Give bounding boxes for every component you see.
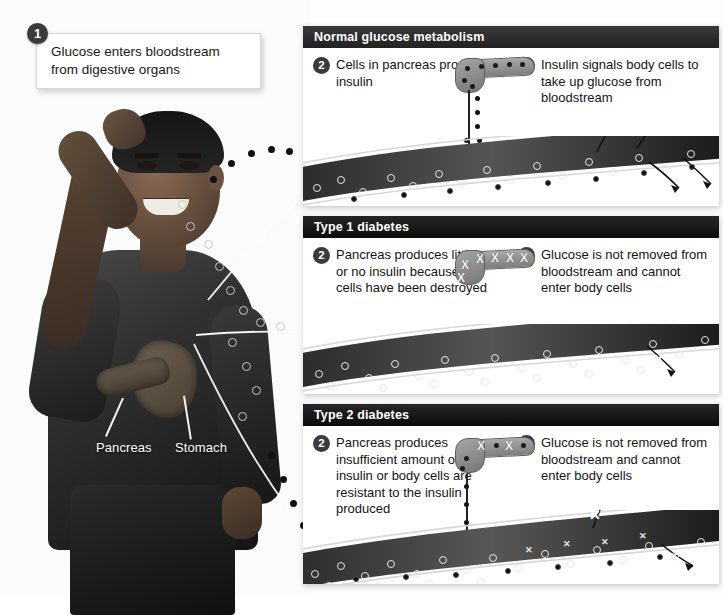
step-number-badge: 2 (313, 247, 330, 264)
panel-type-2-step-3-text: Glucose is not removed from bloodstream … (541, 435, 709, 485)
glucose-marker (327, 382, 335, 390)
destroyed-cell-x-icon: X (461, 259, 469, 271)
glucose-marker (541, 550, 549, 558)
islet-cell-icon (465, 66, 470, 71)
glucose-marker (477, 578, 485, 584)
glucose-marker (489, 554, 497, 562)
islet-cell-icon (507, 62, 512, 67)
step-number-badge: 2 (313, 57, 330, 74)
glucose-marker (415, 372, 423, 380)
glucose-marker (457, 180, 465, 188)
blocked-glucose-x-icon: ✕ (601, 538, 609, 547)
glucose-marker (533, 374, 541, 382)
glucose-marker (337, 176, 345, 184)
callout-step-1-text: Glucose enters bloodstream from digestiv… (51, 44, 220, 77)
insulin-marker (453, 572, 459, 578)
photo-area: Pancreas Stomach (0, 0, 310, 595)
glucose-marker (359, 188, 367, 196)
insulin-dot (475, 124, 480, 129)
destroyed-cell-x-icon: X (520, 252, 528, 264)
glucose-marker (637, 366, 645, 374)
panel-type-1-header: Type 1 diabetes (303, 216, 719, 238)
glucose-marker (315, 370, 323, 378)
glucose-marker (569, 360, 577, 368)
insulin-dot (464, 502, 469, 507)
glucose-marker (687, 150, 695, 158)
glucose-marker (441, 356, 449, 364)
glucose-marker (619, 556, 627, 564)
glucose-marker (341, 362, 349, 370)
insulin-marker (403, 574, 409, 580)
panel-normal-step-3: 3 Insulin signals body cells to take up … (518, 57, 709, 107)
insulin-marker (505, 568, 511, 574)
islet-cell-icon (521, 443, 526, 448)
insulin-marker (495, 184, 501, 190)
glucose-marker (697, 538, 705, 546)
islet-cell-icon (494, 443, 499, 448)
insulin-marker (641, 170, 647, 176)
glucose-marker (645, 542, 653, 550)
glucose-marker (463, 566, 471, 574)
glucose-marker (481, 378, 489, 386)
blood-vessel: ✕ ✕ (303, 510, 719, 584)
blocked-glucose-x-icon: ✕ (563, 540, 571, 549)
stomach-label: Stomach (175, 440, 227, 455)
islet-cell-icon (460, 466, 465, 471)
glucose-marker (361, 572, 369, 580)
pancreas-icon: X X X X X X (453, 246, 533, 290)
insulin-dot (475, 110, 480, 115)
glucose-marker (379, 384, 387, 392)
glucose-marker (517, 364, 525, 372)
glucose-marker (413, 570, 421, 578)
insulin-marker (545, 180, 551, 186)
destroyed-cell-x-icon: X (477, 440, 485, 452)
blood-vessel (303, 136, 719, 206)
glucose-marker (337, 562, 345, 570)
glucose-marker (675, 350, 683, 358)
destroyed-cell-x-icon: X (506, 252, 514, 264)
glucose-marker (465, 368, 473, 376)
eyebrow-left (135, 153, 158, 158)
glucose-marker (483, 166, 491, 174)
panel-type-2-body: 2 Pancreas produces insufficient amount … (303, 426, 719, 584)
glucose-marker (429, 380, 437, 388)
panel-type-1-step-3-text: Glucose is not removed from bloodstream … (541, 247, 709, 297)
insulin-marker (351, 196, 357, 202)
panel-type-1-step-3: 3 Glucose is not removed from bloodstrea… (518, 247, 709, 297)
insulin-marker (353, 576, 359, 582)
glucose-marker (425, 580, 433, 584)
glucose-marker (387, 174, 395, 182)
eyebrow-right (178, 153, 201, 158)
panel-type-2-step-3: 3 Glucose is not removed from bloodstrea… (518, 435, 709, 485)
glucose-marker (595, 346, 603, 354)
insulin-marker (657, 554, 663, 560)
islet-cell-icon (520, 62, 525, 67)
glucose-marker (609, 168, 617, 176)
callout-step-1: 1 Glucose enters bloodstream from digest… (36, 33, 261, 89)
islet-cell-icon (464, 456, 469, 461)
svg-text:✕: ✕ (653, 351, 665, 367)
insulin-dot (464, 484, 469, 489)
pancreas-icon: X X (453, 434, 533, 478)
glucose-marker (701, 336, 709, 344)
glucose-marker (491, 354, 499, 362)
islet-cell-icon (470, 84, 475, 89)
panel-normal-header: Normal glucose metabolism (303, 26, 719, 48)
glucose-marker (585, 158, 593, 166)
destroyed-cell-x-icon: X (476, 253, 484, 265)
panel-type-1-diabetes: Type 1 diabetes 2 Pancreas produces litt… (303, 216, 719, 394)
glucose-marker (325, 582, 333, 584)
eye-right (180, 161, 199, 170)
svg-text:✕: ✕ (589, 510, 601, 523)
insulin-marker (607, 560, 613, 566)
glucose-marker (507, 176, 515, 184)
glucose-marker (635, 154, 643, 162)
islet-cell-icon (479, 64, 484, 69)
islet-cell-icon (462, 78, 467, 83)
eye-left (137, 161, 156, 170)
glucose-marker (533, 162, 541, 170)
insulin-marker (401, 192, 407, 198)
glucose-marker (661, 164, 669, 172)
panel-type-2-header: Type 2 diabetes (303, 404, 719, 426)
glucose-marker (435, 170, 443, 178)
